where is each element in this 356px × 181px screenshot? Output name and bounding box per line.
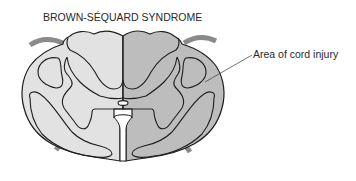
diagram-title: BROWN-SÉQUARD SYNDROME: [43, 11, 202, 23]
nerve-root-dorsal-left: [30, 39, 63, 45]
central-canal: [118, 101, 128, 106]
nerve-root-dorsal-right: [184, 37, 216, 43]
injury-area-label: Area of cord injury: [253, 48, 338, 60]
spinal-cord-diagram: [0, 0, 356, 181]
